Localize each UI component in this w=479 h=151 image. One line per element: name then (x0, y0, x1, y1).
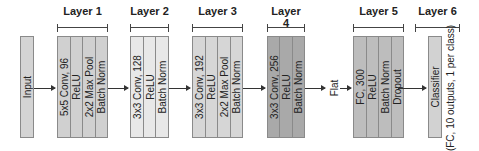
layer6-block: Classifier (428, 36, 442, 138)
layer3-op-label: 2x2 Max Pool (218, 57, 229, 118)
layer1-op-label: Batch Norm (96, 61, 107, 114)
layer5-op: FC, 300 (354, 37, 367, 137)
layer1-bracket (57, 24, 108, 32)
layer2-op-label: 3x3 Conv, 128 (131, 55, 142, 119)
layer3-block: 3x3 Conv, 192 ReLU 2x2 Max Pool Batch No… (192, 36, 243, 138)
arrow-layer4-to-flat (305, 88, 325, 89)
layer3-op: 2x2 Max Pool (218, 37, 231, 137)
input-block: Input (20, 36, 34, 138)
layer6-op-label: Classifier (430, 66, 441, 107)
layer2-op-label: Batch Norm (157, 61, 168, 114)
layer4-op: 3x3 Conv, 256 (268, 37, 280, 137)
layer1-op-label: 5x5 Conv, 96 (58, 58, 69, 116)
arrow-layer3-to-layer4 (243, 88, 265, 89)
layer1-title: Layer 1 (57, 5, 108, 17)
layer5-title: Layer 5 (353, 5, 404, 17)
layer2-block: 3x3 Conv, 128 ReLU Batch Norm (130, 36, 169, 138)
layer5-op-label: ReLU (367, 74, 378, 100)
layer4-op: Batch Norm (293, 37, 304, 137)
layer3-op: ReLU (206, 37, 219, 137)
layer4-bracket (267, 24, 305, 32)
arrow-layer1-to-layer2 (108, 88, 128, 89)
layer2-op-label: ReLU (144, 74, 155, 100)
layer3-bracket (192, 24, 243, 32)
layer1-op: Batch Norm (96, 37, 108, 137)
layer3-title: Layer 3 (192, 5, 243, 17)
layer5-op-label: Dropout (392, 69, 403, 105)
layer4-op-label: ReLU (280, 74, 291, 100)
layer2-op: Batch Norm (156, 37, 168, 137)
layer2-title: Layer 2 (130, 5, 169, 17)
layer1-op-label: ReLU (71, 74, 82, 100)
layer3-op-label: 3x3 Conv, 192 (193, 55, 204, 119)
layer3-op-label: ReLU (206, 74, 217, 100)
layer5-op-label: Batch Norm (379, 61, 390, 114)
layer6-title: Layer 6 (415, 5, 460, 17)
layer4-op-label: 3x3 Conv, 256 (268, 55, 279, 119)
layer4-op: ReLU (280, 37, 292, 137)
layer1-op: 2x2 Max Pool (83, 37, 96, 137)
layer1-block: 5x5 Conv, 96 ReLU 2x2 Max Pool Batch Nor… (57, 36, 108, 138)
layer4-op-label: Batch Norm (293, 61, 304, 114)
layer5-op: ReLU (367, 37, 380, 137)
layer5-op: Dropout (392, 37, 404, 137)
input-label: Input (22, 76, 33, 98)
layer5-block: FC, 300 ReLU Batch Norm Dropout (353, 36, 404, 138)
layer2-op: 3x3 Conv, 128 (131, 37, 144, 137)
arrow-input-to-layer1 (34, 88, 55, 89)
layer1-op-label: 2x2 Max Pool (83, 57, 94, 118)
arrow-layer2-to-layer3 (169, 88, 190, 89)
layer3-op-label: Batch Norm (231, 61, 242, 114)
layer5-bracket (353, 24, 404, 32)
layer3-op: 3x3 Conv, 192 (193, 37, 206, 137)
layer5-op: Batch Norm (379, 37, 392, 137)
layer4-block: 3x3 Conv, 256 ReLU Batch Norm (267, 36, 305, 138)
layer2-op: ReLU (144, 37, 157, 137)
layer3-op: Batch Norm (231, 37, 243, 137)
layer1-op: ReLU (71, 37, 84, 137)
layer1-op: 5x5 Conv, 96 (58, 37, 71, 137)
layer6-op: Classifier (429, 37, 441, 137)
arrow-flat-to-layer5 (340, 88, 351, 89)
flatten-label: Flat (329, 80, 340, 97)
layer5-op-label: FC, 300 (354, 69, 365, 105)
arrow-layer5-to-layer6 (398, 88, 426, 89)
layer6-note: (FC, 10 outputs, 1 per class) (445, 25, 456, 151)
layer2-bracket (130, 24, 169, 32)
input-cell: Input (21, 37, 33, 137)
